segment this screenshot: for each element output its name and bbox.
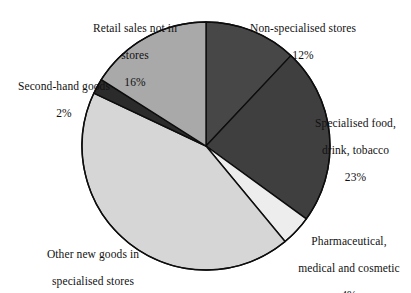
slice-label-percent: 23% xyxy=(300,171,411,185)
slice-label-pharmaceutical-medical-cosmetic: Pharmaceutical, medical and cosmetic 4% xyxy=(287,221,411,293)
slice-label-specialised-food-drink-tobacco: Specialised food, drink, tobacco 23% xyxy=(300,103,411,198)
slice-label-line-1: Pharmaceutical, xyxy=(287,235,411,249)
slice-label-line-2: specialised stores xyxy=(12,275,174,289)
slice-label-line-2: drink, tobacco xyxy=(300,144,411,158)
slice-label-line-1: Non-specialised stores xyxy=(223,22,383,36)
slice-label-line-2: stores xyxy=(62,49,208,63)
pie-chart-figure: Non-specialised stores 12% Specialised f… xyxy=(0,0,411,293)
slice-label-other-new-goods-specialised-stores: Other new goods in specialised stores 43… xyxy=(12,234,174,293)
slice-label-percent: 16% xyxy=(62,76,208,90)
slice-label-retail-sales-not-in-stores: Retail sales not in stores 16% xyxy=(62,8,208,103)
slice-label-percent: 4% xyxy=(287,289,411,293)
slice-label-non-specialised-stores: Non-specialised stores 12% xyxy=(223,8,383,76)
slice-label-percent: 2% xyxy=(0,107,128,121)
slice-label-line-1: Retail sales not in xyxy=(62,22,208,36)
slice-label-line-1: Specialised food, xyxy=(300,117,411,131)
slice-label-line-1: Other new goods in xyxy=(12,248,174,262)
slice-label-percent: 12% xyxy=(223,49,383,63)
slice-label-line-2: medical and cosmetic xyxy=(287,262,411,276)
